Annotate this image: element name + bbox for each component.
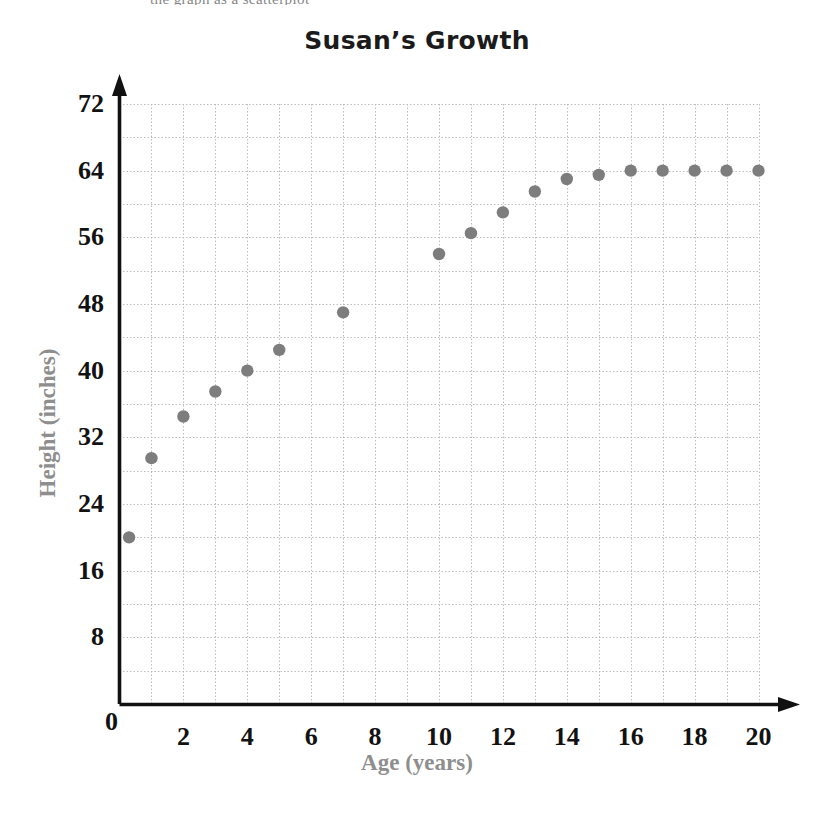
y-tick-label: 8 bbox=[40, 622, 104, 652]
data-point bbox=[241, 364, 253, 376]
y-tick-label: 56 bbox=[40, 222, 104, 252]
scatter-plot-canvas bbox=[0, 0, 834, 816]
x-tick-label: 6 bbox=[305, 722, 318, 752]
y-axis-title: Height (inches) bbox=[35, 313, 61, 533]
data-point-group bbox=[123, 164, 765, 543]
data-point bbox=[123, 531, 135, 543]
data-point bbox=[752, 164, 764, 176]
growth-chart-figure: the graph as a scatterplot Susan’s Growt… bbox=[0, 0, 834, 816]
x-tick-label: 8 bbox=[369, 722, 382, 752]
data-point bbox=[177, 410, 189, 422]
x-axis-arrowhead bbox=[778, 697, 800, 712]
x-tick-label: 20 bbox=[746, 722, 772, 752]
data-point bbox=[433, 248, 445, 260]
data-point bbox=[561, 173, 573, 185]
gridlines bbox=[120, 104, 760, 704]
y-tick-label: 0 bbox=[54, 707, 118, 737]
x-tick-label: 10 bbox=[426, 722, 452, 752]
data-point bbox=[145, 452, 157, 464]
x-tick-label: 2 bbox=[177, 722, 190, 752]
data-point bbox=[209, 385, 221, 397]
data-point bbox=[529, 185, 541, 197]
y-tick-label: 16 bbox=[40, 556, 104, 586]
data-point bbox=[688, 164, 700, 176]
x-tick-label: 14 bbox=[554, 722, 580, 752]
data-point bbox=[656, 164, 668, 176]
y-tick-label: 72 bbox=[40, 89, 104, 119]
x-tick-label: 18 bbox=[682, 722, 708, 752]
data-point bbox=[593, 169, 605, 181]
data-point bbox=[273, 344, 285, 356]
data-point bbox=[497, 206, 509, 218]
data-point bbox=[465, 227, 477, 239]
x-axis-title: Age (years) bbox=[0, 750, 834, 776]
y-axis-arrowhead bbox=[112, 74, 127, 96]
data-point bbox=[337, 306, 349, 318]
data-point bbox=[720, 164, 732, 176]
y-tick-label: 64 bbox=[40, 156, 104, 186]
data-point bbox=[625, 164, 637, 176]
x-tick-label: 4 bbox=[241, 722, 254, 752]
x-tick-label: 12 bbox=[490, 722, 516, 752]
x-tick-label: 16 bbox=[618, 722, 644, 752]
